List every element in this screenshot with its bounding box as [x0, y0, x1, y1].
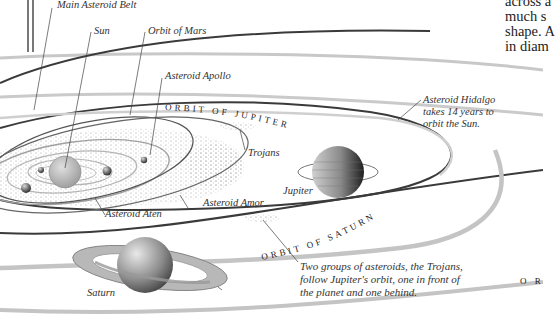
saturn	[117, 237, 173, 293]
trojans-leading	[220, 122, 256, 130]
label-hidalgo-line2: takes 14 years to	[423, 106, 494, 118]
orbit-title-outer-partial: O R	[520, 276, 543, 286]
sun	[49, 156, 81, 188]
jupiter	[312, 146, 364, 198]
label-trojans: Trojans	[248, 147, 280, 159]
label-jupiter: Jupiter	[283, 185, 313, 197]
venus	[103, 167, 112, 176]
label-asteroid-amor: Asteroid Amor	[203, 197, 264, 209]
label-orbit-of-mars: Orbit of Mars	[148, 25, 206, 37]
body-text-line4: in diam	[505, 39, 549, 54]
label-sun: Sun	[94, 25, 110, 37]
label-main-asteroid-belt: Main Asteroid Belt	[57, 0, 136, 11]
body-text-line2: much s	[505, 9, 546, 24]
outer-orbit-bottom	[0, 282, 543, 312]
mars	[141, 157, 147, 163]
label-hidalgo-line3: orbit the Sun.	[423, 118, 480, 130]
trojans-trailing	[244, 214, 280, 222]
body-text-line3: shape. A	[505, 24, 555, 39]
earth	[21, 183, 31, 193]
note-trojans-line1: Two groups of asteroids, the Trojans,	[300, 260, 463, 272]
label-hidalgo-line1: Asteroid Hidalgo	[423, 94, 495, 106]
label-asteroid-apollo: Asteroid Apollo	[165, 70, 231, 82]
margin-bar	[28, 0, 33, 52]
note-trojans-line3: the planet and one behind.	[300, 286, 417, 298]
note-trojans-line2: follow Jupiter's orbit, one in front of	[300, 273, 460, 285]
label-saturn: Saturn	[87, 287, 115, 299]
mercury	[38, 167, 44, 173]
label-asteroid-aten: Asteroid Aten	[105, 208, 162, 220]
